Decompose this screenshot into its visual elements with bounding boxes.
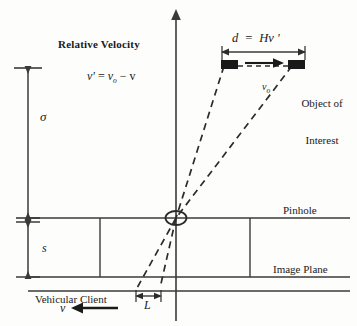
ray-far-object-to-pinhole	[176, 66, 292, 218]
s-top-arrowhead-icon	[25, 220, 32, 228]
relative-velocity-heading: Relative Velocity	[58, 38, 140, 50]
formula-minus: −	[120, 69, 127, 83]
s-dimension	[16, 220, 40, 279]
sigma-label: σ	[40, 110, 46, 125]
object-of-interest-near-position	[221, 60, 238, 69]
vehicular-client-label: Vehicular Client	[35, 293, 107, 305]
relative-velocity-formula: v' = vo − v	[75, 57, 136, 100]
distance-formula-label: d = Hv '	[232, 31, 280, 45]
formula-v-object-subscript: o	[113, 77, 117, 86]
object-velocity-subscript: o	[266, 86, 270, 95]
optical-axis-arrowhead-icon	[171, 9, 181, 20]
ray-near-object-to-pinhole	[176, 66, 224, 218]
vehicle-velocity-label: v	[60, 302, 65, 315]
object-of-interest-label: Object of Interest	[292, 72, 352, 171]
diagram-canvas: Relative Velocity v' = vo − v d = Hv ' v…	[0, 0, 357, 326]
sigma-bottom-arrowhead-icon	[25, 212, 32, 220]
image-plane-label: Image Plane	[273, 263, 328, 275]
formula-prime-mark: '	[92, 69, 95, 83]
object-of-interest-line-1: Object of	[292, 97, 352, 109]
formula-v-vehicle: v	[130, 69, 136, 83]
pinhole-label: Pinhole	[283, 204, 317, 216]
s-label: s	[42, 242, 47, 255]
optical-axis	[171, 9, 181, 321]
s-bottom-arrowhead-icon	[25, 271, 32, 279]
d-dimension	[221, 46, 306, 60]
object-of-interest-far-position	[288, 60, 305, 69]
baseline-L-label: L	[144, 299, 151, 312]
object-of-interest-line-2: Interest	[292, 134, 352, 146]
sigma-dimension	[14, 66, 42, 220]
object-velocity-label: vo	[252, 70, 270, 107]
formula-equals: =	[98, 69, 105, 83]
sigma-top-arrowhead-icon	[25, 66, 32, 74]
